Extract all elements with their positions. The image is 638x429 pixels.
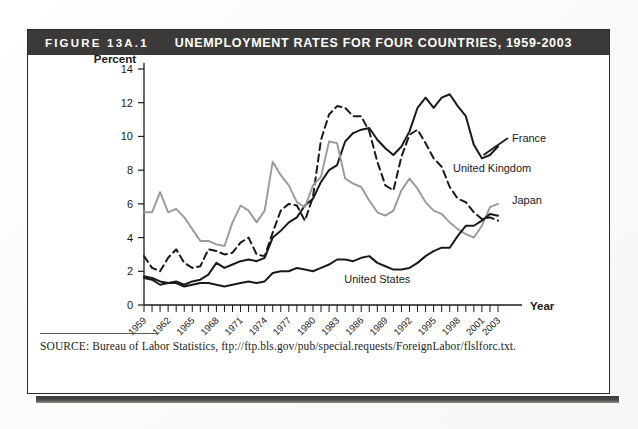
x-tick-label: 1986 [343, 315, 366, 338]
france-leader-line [484, 138, 508, 155]
series-line-united-kingdom [144, 106, 498, 271]
page-canvas: FIGURE 13A.1 UNEMPLOYMENT RATES FOR FOUR… [0, 0, 638, 429]
y-tick-label: 10 [121, 130, 133, 142]
series-line-france [144, 94, 498, 284]
x-tick-label: 1968 [198, 315, 221, 338]
x-tick-label: 1995 [415, 315, 438, 338]
y-tick-label: 8 [127, 164, 133, 176]
x-tick-label: 1998 [439, 315, 462, 338]
figure-number: FIGURE 13A.1 [45, 37, 149, 49]
x-tick-label: 1983 [319, 315, 342, 338]
y-tick-label: 12 [121, 97, 133, 109]
line-chart: 02468101214Percent1959196219651968197119… [28, 55, 609, 355]
y-tick-label: 4 [127, 232, 133, 244]
series-label-united-kingdom: United Kingdom [453, 162, 531, 174]
series-label-japan: Japan [512, 194, 542, 206]
y-tick-label: 0 [127, 299, 133, 311]
x-tick-label: 1992 [391, 315, 414, 338]
figure-title: UNEMPLOYMENT RATES FOR FOUR COUNTRIES, 1… [175, 36, 572, 50]
source-note: SOURCE: Bureau of Labor Statistics, ftp:… [40, 340, 516, 352]
x-tick-label: 1977 [271, 315, 294, 338]
figure-drop-shadow [36, 396, 619, 403]
series-label-united-states: United States [344, 273, 411, 285]
x-tick-label: 2003 [480, 315, 503, 338]
y-tick-label: 6 [127, 198, 133, 210]
x-tick-label: 1971 [222, 315, 245, 338]
y-axis-title: Percent [94, 55, 136, 65]
x-tick-label: 1980 [295, 315, 318, 338]
series-line-united-states [144, 214, 498, 286]
x-tick-label: 1965 [174, 315, 197, 338]
series-label-france: France [512, 132, 546, 144]
source-divider [40, 333, 158, 334]
figure-container: FIGURE 13A.1 UNEMPLOYMENT RATES FOR FOUR… [27, 29, 610, 394]
x-tick-label: 1989 [367, 315, 390, 338]
y-tick-label: 2 [127, 265, 133, 277]
figure-header-bar: FIGURE 13A.1 UNEMPLOYMENT RATES FOR FOUR… [28, 30, 609, 55]
series-line-japan [144, 141, 498, 246]
x-tick-label: 1974 [246, 315, 269, 338]
x-axis-title: Year [530, 300, 555, 312]
